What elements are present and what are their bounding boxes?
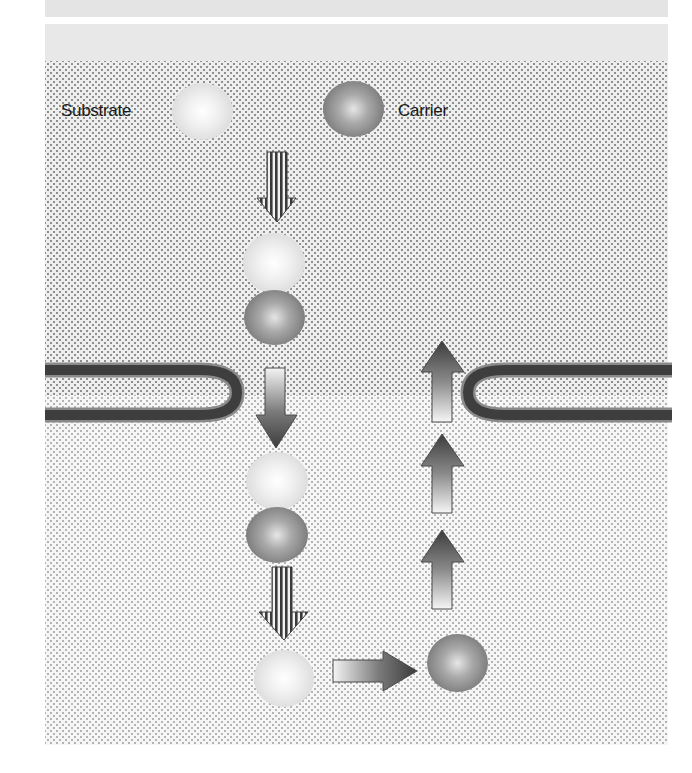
translocation-down-arrow <box>256 368 297 448</box>
membrane-right <box>468 370 672 415</box>
striped-down-arrow-release <box>259 567 308 640</box>
membrane-left <box>45 370 237 415</box>
up-arrow-return-1 <box>421 341 464 422</box>
diagram-graphics <box>0 0 692 773</box>
up-arrow-return-2 <box>421 434 464 513</box>
striped-down-arrow-binding <box>257 152 296 222</box>
right-arrow-to-carrier <box>333 651 417 691</box>
up-arrow-return-3 <box>421 530 464 609</box>
